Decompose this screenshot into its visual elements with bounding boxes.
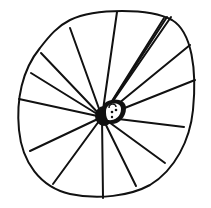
web-spoke — [19, 99, 102, 117]
spider-figure — [95, 100, 126, 126]
eye-icon — [115, 109, 118, 112]
web-spoke — [70, 28, 102, 117]
web-sketch — [0, 0, 211, 208]
eye-icon — [111, 111, 114, 114]
web-spoke — [102, 117, 136, 186]
web-spoke — [53, 117, 102, 184]
web-spoke — [102, 117, 103, 198]
dot-icon — [111, 116, 113, 118]
web-spoke — [30, 117, 102, 151]
